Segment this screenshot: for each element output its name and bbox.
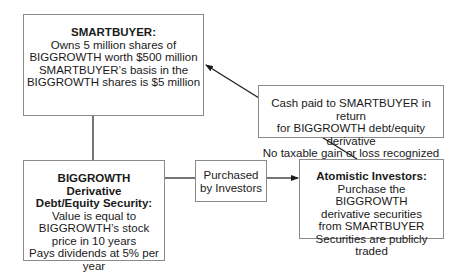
derivative-title: Debt/Equity Security:	[24, 197, 164, 210]
cash-line: for BIGGROWTH debt/equity derivative	[259, 122, 443, 147]
derivative-title: BIGGROWTH	[24, 172, 164, 185]
cash-paid-box: Cash paid to SMARTBUYER in return for BI…	[258, 85, 444, 138]
cash-line: Cash paid to SMARTBUYER in return	[259, 97, 443, 122]
smartbuyer-box: SMARTBUYER: Owns 5 million shares of BIG…	[23, 14, 204, 116]
derivative-line: BIGGROWTH’s stock	[24, 222, 164, 235]
derivative-line: price in 10 years	[24, 235, 164, 248]
purchased-line: by Investors	[196, 182, 266, 195]
smartbuyer-line: SMARTBUYER’s basis in the	[24, 64, 203, 77]
smartbuyer-line: BIGGROWTH worth $500 million	[24, 51, 203, 64]
derivative-title: Derivative	[24, 185, 164, 198]
investors-line: Securities are publicly traded	[300, 233, 443, 258]
purchased-by-investors-box: Purchased by Investors	[195, 160, 267, 202]
investors-title: Atomistic Investors:	[300, 170, 443, 183]
smartbuyer-line: Owns 5 million shares of	[24, 39, 203, 52]
derivative-security-box: BIGGROWTH Derivative Debt/Equity Securit…	[23, 160, 165, 261]
investors-line: Purchase the BIGGROWTH	[300, 183, 443, 208]
smartbuyer-title: SMARTBUYER:	[24, 26, 203, 39]
derivative-line: Pays dividends at 5% per year	[24, 247, 164, 272]
atomistic-investors-box: Atomistic Investors: Purchase the BIGGRO…	[299, 159, 444, 239]
purchased-line: Purchased	[196, 169, 266, 182]
smartbuyer-line: BIGGROWTH shares is $5 million	[24, 76, 203, 89]
cash-line: No taxable gain or loss recognized	[259, 147, 443, 160]
investors-line: from SMARTBUYER	[300, 220, 443, 233]
derivative-line: Value is equal to	[24, 210, 164, 223]
investors-line: derivative securities	[300, 208, 443, 221]
